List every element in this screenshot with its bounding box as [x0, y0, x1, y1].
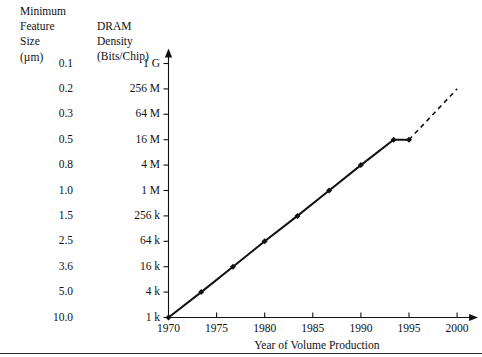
- x-axis-arrow: [469, 314, 478, 321]
- x-axis-title: Year of Volume Production: [254, 340, 379, 352]
- footer-rule: [0, 353, 482, 354]
- chart-page: Minimum Feature Size (µm) DRAM Density (…: [0, 0, 482, 357]
- x-tick-label: 1970: [157, 323, 180, 335]
- trend-line: [169, 140, 410, 318]
- x-tick-label: 2000: [446, 323, 469, 335]
- chart-axes: [164, 49, 479, 322]
- x-tick-label: 1995: [398, 323, 421, 335]
- x-tick-label: 1985: [301, 323, 324, 335]
- x-tick-label: 1975: [205, 323, 228, 335]
- y-axis-arrow: [165, 49, 172, 58]
- x-tick-label: 1980: [253, 323, 276, 335]
- chart-series: [166, 89, 458, 321]
- plot-area: [0, 0, 482, 357]
- x-tick-label: 1990: [349, 323, 372, 335]
- projection-line: [409, 89, 457, 140]
